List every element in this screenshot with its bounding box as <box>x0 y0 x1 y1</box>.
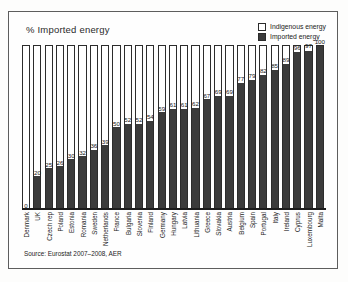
bar-imported-segment <box>204 99 210 208</box>
bar-value-label: 54 <box>147 113 154 120</box>
bar-value-label: 36 <box>90 142 97 149</box>
bar-value-label: 96 <box>294 44 301 51</box>
x-axis-tick-label: France <box>113 212 120 232</box>
x-axis-tick-label: Latvia <box>181 212 188 229</box>
bar-value-label: 85 <box>271 62 278 69</box>
bar-column: 77 <box>237 45 245 209</box>
bar-column: 69 <box>214 45 222 209</box>
chart-figure: % Imported energy Indigenous energy Impo… <box>0 0 348 282</box>
bar-column: 50 <box>112 45 120 209</box>
bar-value-label: 20 <box>34 169 41 176</box>
x-axis-tick-label: Slovakia <box>215 212 222 236</box>
bar-imported-segment <box>159 112 165 208</box>
bar-imported-segment <box>170 109 176 208</box>
bar-column: 96 <box>293 45 301 209</box>
x-axis-tick: Greece <box>203 211 211 259</box>
bar-column: 85 <box>271 45 279 209</box>
bar-indigenous-segment <box>304 45 312 209</box>
x-axis-tick-label: Ireland <box>282 212 289 231</box>
x-axis-tick-label: UK <box>34 212 41 221</box>
bar-column: 61 <box>180 45 188 209</box>
bar-imported-segment <box>125 124 131 208</box>
x-axis-tick: Bulgaria <box>124 211 132 259</box>
bar-imported-segment <box>91 150 97 208</box>
bar-value-label: 82 <box>260 67 267 74</box>
bar-indigenous-segment <box>146 45 154 209</box>
legend-item-indigenous: Indigenous energy <box>258 22 326 31</box>
bar-indigenous-segment <box>214 45 222 209</box>
bar-imported-segment <box>181 109 187 208</box>
bar-value-label: 61 <box>181 101 188 108</box>
bar-column: 39 <box>101 45 109 209</box>
bar-imported-segment <box>305 51 311 208</box>
bar-imported-segment <box>192 108 198 208</box>
bar-indigenous-segment <box>101 45 109 209</box>
bar-value-label: 77 <box>237 75 244 82</box>
bar-value-label: 69 <box>215 88 222 95</box>
bar-value-label: 62 <box>192 100 199 107</box>
x-axis-tick-label: Romania <box>79 212 86 237</box>
bar-indigenous-segment <box>45 45 53 209</box>
x-axis-tick-label: Belgium <box>237 212 244 235</box>
x-axis-tick: Germany <box>158 211 166 259</box>
x-axis-tick: Malta <box>316 211 324 259</box>
bar-indigenous-segment <box>169 45 177 209</box>
bar-column: 0 <box>22 45 30 209</box>
bar-imported-segment <box>317 46 323 208</box>
bar-imported-segment <box>283 64 289 208</box>
bar-column: 54 <box>146 45 154 209</box>
bar-column: 30 <box>67 45 75 209</box>
bar-indigenous-segment <box>135 45 143 209</box>
bar-imported-segment <box>147 121 153 208</box>
x-axis-tick-label: Czech rep <box>45 212 52 241</box>
x-axis-tick-label: Finland <box>147 212 154 233</box>
bar-imported-segment <box>272 70 278 208</box>
bar-indigenous-segment <box>316 45 324 209</box>
bar-value-label: 32 <box>79 149 86 156</box>
bar-column: 82 <box>259 45 267 209</box>
bar-indigenous-segment <box>56 45 64 209</box>
bar-value-label: 100 <box>315 38 325 45</box>
bar-indigenous-segment <box>237 45 245 209</box>
bar-indigenous-segment <box>22 45 30 209</box>
bar-indigenous-segment <box>203 45 211 209</box>
x-axis-tick-label: Italy <box>271 212 278 224</box>
bar-column: 69 <box>225 45 233 209</box>
bar-column: 26 <box>56 45 64 209</box>
bar-imported-segment <box>102 145 108 208</box>
bar-column: 79 <box>248 45 256 209</box>
bar-value-label: 39 <box>102 138 109 145</box>
bar-value-label: 52 <box>136 116 143 123</box>
bar-value-label: 97 <box>305 42 312 49</box>
bar-indigenous-segment <box>112 45 120 209</box>
bar-column: 97 <box>304 45 312 209</box>
legend-swatch-indigenous <box>258 23 266 31</box>
bar-column: 89 <box>282 45 290 209</box>
bar-imported-segment <box>215 96 221 208</box>
x-axis-tick-label: Bulgaria <box>124 212 131 235</box>
x-axis-tick-label: Portugal <box>260 212 267 235</box>
x-axis-tick-label: Luxembourg <box>305 212 312 247</box>
x-axis-tick-label: Estonia <box>68 212 75 233</box>
x-axis-tick: Luxembourg <box>304 211 312 259</box>
x-axis-tick: Italy <box>271 211 279 259</box>
bar-column: 67 <box>203 45 211 209</box>
legend-label-indigenous: Indigenous energy <box>270 23 326 31</box>
bar-value-label: 89 <box>282 56 289 63</box>
x-axis-tick-label: Cyprus <box>294 212 301 232</box>
bar-imported-segment <box>57 166 63 208</box>
x-axis-tick-label: Netherlands <box>102 212 109 246</box>
bar-indigenous-segment <box>158 45 166 209</box>
bar-imported-segment <box>113 127 119 208</box>
bar-indigenous-segment <box>90 45 98 209</box>
bar-value-label: 59 <box>158 105 165 112</box>
legend-swatch-imported <box>258 33 266 41</box>
x-axis-tick: Slovenia <box>135 211 143 259</box>
x-axis-tick-label: Greece <box>203 212 210 233</box>
x-axis-tick: Cyprus <box>293 211 301 259</box>
bar-column: 20 <box>33 45 41 209</box>
bar-value-label: 50 <box>113 120 120 127</box>
bar-indigenous-segment <box>271 45 279 209</box>
legend-label-imported: Imported energy <box>270 33 320 41</box>
bar-indigenous-segment <box>67 45 75 209</box>
